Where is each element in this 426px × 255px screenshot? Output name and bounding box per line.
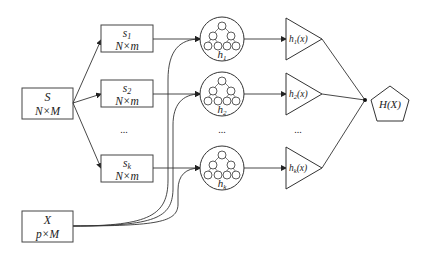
hyp-arg: (x) <box>297 34 308 45</box>
aggregation-lines <box>322 39 365 168</box>
svg-text:h2(x): h2(x) <box>289 89 308 100</box>
input-dims: p×M <box>35 228 61 241</box>
svg-text:hk(x): hk(x) <box>289 163 307 174</box>
ellipsis-hypotheses: ... <box>294 124 302 135</box>
subset-dims: N×m <box>114 95 139 107</box>
junction-dot <box>363 98 367 102</box>
tree-2: h2 <box>200 72 244 117</box>
hyp-arg: (x) <box>297 163 308 174</box>
subset-dims: N×m <box>114 170 139 182</box>
output-label: H(X) <box>378 98 401 111</box>
source-dims: N×M <box>34 105 61 117</box>
hyp-arg: (x) <box>297 89 308 100</box>
subset-dims: N×m <box>114 40 139 52</box>
tree-subscript: 1 <box>223 54 227 62</box>
input-curves <box>73 39 200 226</box>
predict-arrows <box>244 39 286 168</box>
ellipsis-trees: ... <box>218 124 226 135</box>
input-title: X <box>43 213 52 227</box>
tree-k: hk <box>200 146 244 191</box>
hypothesis-2: h2(x) <box>286 73 322 115</box>
subset-box-k: sk N×m <box>101 155 153 182</box>
sampling-arrows <box>73 40 101 168</box>
diagram-canvas: S N×M s1 N×m s2 N×m sk N×m ... ... ... <box>0 0 426 255</box>
subset-box-1: s1 N×m <box>101 25 153 52</box>
train-arrows <box>153 39 200 168</box>
source-title: S <box>45 90 51 104</box>
tree-1: h1 <box>200 17 244 62</box>
subset-box-2: s2 N×m <box>101 80 153 107</box>
ensemble-diagram: S N×M s1 N×m s2 N×m sk N×m ... ... ... <box>0 0 426 255</box>
ellipsis-subsets: ... <box>120 124 128 135</box>
hypothesis-1: h1(x) <box>286 18 322 60</box>
svg-text:h1(x): h1(x) <box>289 34 308 45</box>
input-box-X: X p×M <box>22 211 73 242</box>
hypothesis-k: hk(x) <box>286 147 322 189</box>
tree-subscript: 2 <box>223 109 227 117</box>
output-H: H(X) <box>371 86 409 121</box>
source-box-S: S N×M <box>22 88 73 119</box>
